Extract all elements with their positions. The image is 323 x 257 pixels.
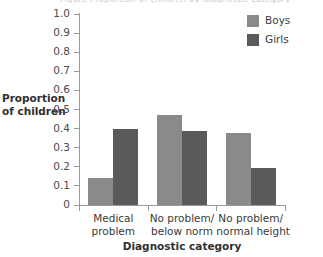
- x-axis-group-tick: [216, 205, 217, 211]
- bar-boys-group-3: [226, 133, 251, 205]
- x-axis-category-label-line: below norm: [148, 225, 217, 238]
- legend-item-boys[interactable]: Boys: [247, 12, 290, 29]
- x-axis-title: Diagnostic category: [79, 240, 285, 252]
- legend-label-girls: Girls: [265, 34, 289, 45]
- y-axis-tick-label: 1.0: [24, 8, 70, 19]
- y-axis-tick-label: 0.8: [24, 46, 70, 57]
- x-axis-group-tick: [148, 205, 149, 211]
- x-axis-category-label-1: Medicalproblem: [79, 212, 148, 238]
- y-axis-tick-label: 0.1: [24, 180, 70, 191]
- y-axis-tick-label: 0.7: [24, 65, 70, 76]
- y-axis-tick-label: 0.2: [24, 161, 70, 172]
- y-axis-tick-label: 0: [24, 199, 70, 210]
- bar-girls-group-2: [182, 131, 207, 205]
- x-axis-category-label-2: No problem/below norm: [148, 212, 217, 238]
- legend-swatch-boys: [247, 15, 259, 27]
- bar-boys-group-1: [88, 178, 113, 205]
- x-axis-category-label-line: normal height: [216, 225, 285, 238]
- x-axis-category-label-3: No problem/normal height: [216, 212, 285, 238]
- y-axis-tick-label: 0.9: [24, 27, 70, 38]
- legend-swatch-girls: [247, 34, 259, 46]
- x-axis-category-label-line: No problem/: [148, 212, 217, 225]
- y-axis-tick-label: 0.3: [24, 142, 70, 153]
- bar-chart-figure: Figure Proportion of children by diagnos…: [0, 0, 323, 257]
- x-axis-category-label-line: No problem/: [216, 212, 285, 225]
- bar-girls-group-3: [251, 168, 276, 205]
- y-axis-tick-label: 0.6: [24, 84, 70, 95]
- legend-item-girls[interactable]: Girls: [247, 31, 290, 48]
- bar-boys-group-2: [157, 115, 182, 205]
- x-axis-category-label-line: Medical: [79, 212, 148, 225]
- x-axis-end-tick: [285, 205, 286, 211]
- chart-legend: BoysGirls: [247, 12, 290, 50]
- x-axis-category-label-line: problem: [79, 225, 148, 238]
- x-axis-end-tick: [79, 205, 80, 211]
- y-axis-tick-label: 0.5: [24, 104, 70, 115]
- y-axis-tick-label: 0.4: [24, 123, 70, 134]
- legend-label-boys: Boys: [265, 15, 290, 26]
- clipped-caption-text: Figure Proportion of children by diagnos…: [60, 0, 300, 3]
- bar-girls-group-1: [113, 129, 138, 205]
